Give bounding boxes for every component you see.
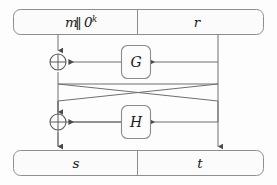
function-box-H[interactable]: H	[122, 106, 151, 139]
label-concat-separator: ‖	[75, 14, 82, 30]
oaep-diagram-canvas: m ‖ 0 k r	[0, 0, 277, 185]
bottom-bar-outline	[14, 151, 264, 176]
label-zero-exponent: k	[92, 14, 97, 24]
bottom-bar: s t	[14, 151, 264, 176]
top-bar-left-cell: m ‖ 0 k	[65, 14, 97, 31]
xor-gate-top	[50, 54, 66, 70]
function-box-G-label: G	[130, 54, 141, 70]
top-bar-outline	[14, 10, 264, 35]
function-box-G[interactable]: G	[122, 46, 151, 79]
label-t: t	[197, 155, 203, 171]
function-box-H-label: H	[129, 114, 143, 130]
xor-gate-bottom	[50, 114, 66, 130]
label-s: s	[73, 155, 80, 171]
oaep-diagram: m ‖ 0 k r	[0, 0, 277, 185]
top-bar: m ‖ 0 k r	[14, 10, 264, 35]
